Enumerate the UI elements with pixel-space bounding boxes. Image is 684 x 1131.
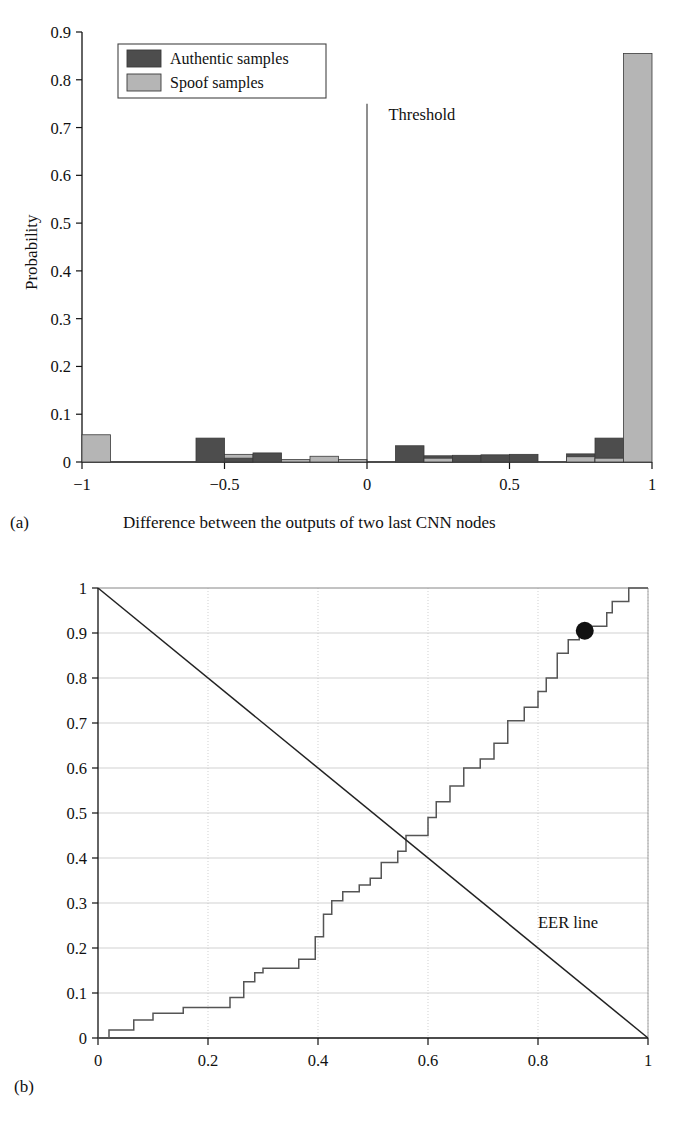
roc-y-tick-label: 1	[79, 579, 87, 598]
histogram-x-tick-label: 0	[363, 475, 371, 494]
bar-spoof	[624, 54, 653, 463]
legend-swatch	[127, 74, 161, 91]
histogram-y-tick-label: 0.3	[50, 310, 71, 329]
bar-spoof	[339, 460, 368, 462]
roc-y-tick-label: 0.3	[66, 894, 87, 913]
legend-swatch	[127, 50, 161, 67]
histogram-x-tick-label: −1	[73, 475, 91, 494]
histogram-y-tick-label: 0.2	[50, 357, 71, 376]
roc-x-tick-label: 1	[644, 1051, 652, 1070]
figure-page: 00.10.20.30.40.50.60.70.80.9−1−0.500.51T…	[0, 0, 684, 1131]
histogram-legend: Authentic samplesSpoof samples	[118, 44, 326, 98]
legend-label: Authentic samples	[170, 50, 289, 68]
bar-spoof	[595, 458, 624, 462]
operating-point-marker	[576, 622, 594, 640]
histogram-x-tick-label: −0.5	[210, 475, 240, 494]
histogram-y-axis-title: Probability	[22, 214, 42, 290]
eer-line-label: EER line	[538, 913, 598, 932]
roc-y-tick-label: 0.7	[66, 714, 87, 733]
histogram-x-tick-label: 0.5	[499, 475, 520, 494]
histogram-y-tick-label: 0.7	[50, 119, 71, 138]
panel-b-label: (b)	[14, 1077, 34, 1097]
panel-a-histogram: 00.10.20.30.40.50.60.70.80.9−1−0.500.51T…	[0, 0, 684, 560]
roc-x-tick-label: 0.2	[198, 1051, 219, 1070]
bar-authentic	[253, 453, 282, 462]
histogram-y-tick-label: 0.4	[50, 262, 71, 281]
bar-authentic	[196, 438, 225, 462]
bar-spoof	[567, 457, 596, 462]
histogram-x-axis-title: Difference between the outputs of two la…	[123, 513, 496, 533]
bar-spoof	[282, 460, 311, 462]
panel-b-roc: 00.10.20.30.40.50.60.70.80.9100.20.40.60…	[0, 560, 684, 1131]
bar-authentic	[225, 458, 254, 462]
roc-y-tick-label: 0.6	[66, 759, 87, 778]
roc-y-tick-label: 0.4	[66, 849, 87, 868]
roc-y-tick-label: 0	[79, 1029, 87, 1048]
histogram-plot: 00.10.20.30.40.50.60.70.80.9−1−0.500.51T…	[0, 0, 684, 560]
bar-spoof	[82, 435, 111, 462]
histogram-y-tick-label: 0	[63, 453, 71, 472]
bar-authentic	[510, 454, 539, 462]
roc-x-tick-label: 0.8	[528, 1051, 549, 1070]
bar-spoof	[310, 456, 339, 462]
bar-authentic	[453, 455, 482, 462]
roc-y-tick-label: 0.1	[66, 984, 87, 1003]
roc-x-tick-label: 0.4	[308, 1051, 329, 1070]
roc-plot: 00.10.20.30.40.50.60.70.80.9100.20.40.60…	[0, 560, 684, 1131]
bar-authentic	[396, 446, 425, 462]
histogram-x-tick-label: 1	[648, 475, 656, 494]
roc-y-tick-label: 0.2	[66, 939, 87, 958]
roc-x-tick-label: 0.6	[418, 1051, 439, 1070]
roc-y-tick-label: 0.9	[66, 624, 87, 643]
histogram-y-tick-label: 0.1	[50, 405, 71, 424]
bar-authentic	[481, 455, 510, 462]
roc-x-tick-label: 0	[94, 1051, 102, 1070]
threshold-label: Threshold	[388, 105, 456, 124]
panel-a-label: (a)	[10, 513, 29, 533]
legend-label: Spoof samples	[170, 74, 264, 92]
histogram-y-tick-label: 0.6	[50, 166, 71, 185]
roc-y-tick-label: 0.5	[66, 804, 87, 823]
histogram-y-tick-label: 0.9	[50, 23, 71, 42]
histogram-y-tick-label: 0.5	[50, 214, 71, 233]
roc-y-tick-label: 0.8	[66, 669, 87, 688]
bar-spoof	[424, 458, 453, 462]
histogram-y-tick-label: 0.8	[50, 71, 71, 90]
